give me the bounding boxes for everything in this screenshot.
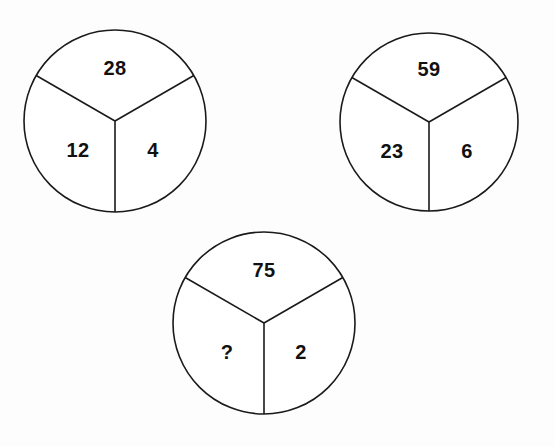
sector-label-top-1: 28: [103, 57, 126, 79]
sector-label-lower-right-1: 4: [147, 139, 159, 161]
sector-label-top-3: 75: [252, 259, 275, 281]
puzzle-diagram: 28 12 4 59 23 6 75 ? 2: [0, 0, 555, 447]
sector-label-lower-left-2: 23: [380, 140, 403, 162]
sector-label-lower-right-2: 6: [461, 140, 473, 162]
sector-label-top-2: 59: [417, 58, 440, 80]
sector-label-lower-right-3: 2: [295, 341, 307, 363]
sector-label-lower-left-1: 12: [66, 139, 89, 161]
circle-group-1: 28 12 4: [24, 30, 206, 212]
sector-label-unknown-3: ?: [221, 341, 234, 363]
circle-group-3: 75 ? 2: [173, 232, 355, 414]
circle-group-2: 59 23 6: [340, 33, 518, 211]
